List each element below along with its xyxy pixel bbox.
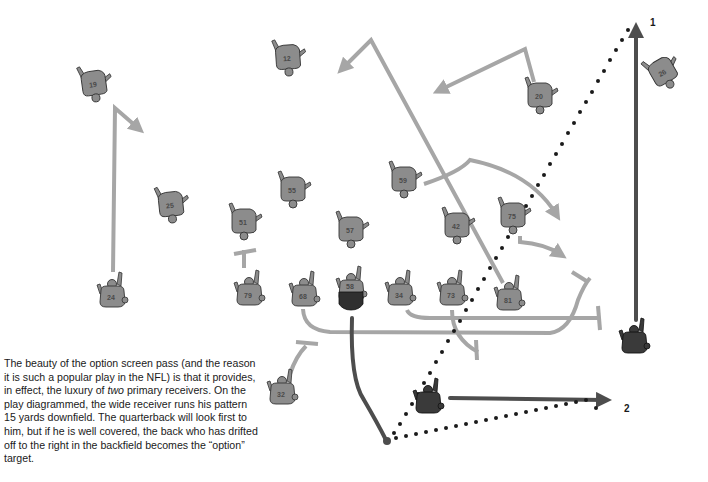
route-75 [520,236,560,254]
svg-text:34: 34 [395,292,403,299]
svg-text:25: 25 [166,202,175,210]
svg-text:57: 57 [346,227,354,234]
svg-text:20: 20 [535,93,543,100]
player-75: 75 [498,197,531,234]
player-68: 68 [289,271,320,306]
svg-text:81: 81 [504,297,512,304]
defense-players: 19 12 20 26 25 51 55 57 59 42 75 [77,38,688,248]
player-34: 34 [385,270,416,305]
player-51: 51 [229,203,262,240]
diagram-caption: The beauty of the option screen pass (an… [4,357,260,466]
route-label-2: 2 [624,403,630,414]
player-12: 12 [272,38,308,77]
svg-text:55: 55 [288,187,296,194]
svg-text:75: 75 [508,213,516,220]
player-73: 73 [437,270,468,305]
player-19: 19 [77,63,115,104]
player-25: 25 [154,184,191,224]
route-20 [440,49,534,90]
offense-players: 58 [336,266,650,413]
player-24: 24 [97,272,128,307]
svg-text:51: 51 [239,219,247,226]
svg-text:59: 59 [399,177,407,184]
route-2-back [450,398,604,400]
route-24 [113,108,138,272]
svg-text:79: 79 [244,292,252,299]
caption-emphasis: two [107,384,124,396]
player-center-58: 58 [336,266,367,310]
svg-text:12: 12 [283,55,291,63]
pass-paths [392,28,630,440]
route-label-1: 1 [650,17,656,28]
route-59 [424,160,556,214]
quarterback-position [383,437,391,445]
player-20: 20 [525,77,558,114]
svg-text:24: 24 [107,294,115,301]
player-32: 32 [267,369,298,404]
svg-text:19: 19 [89,81,98,89]
svg-text:58: 58 [346,283,354,290]
player-59: 59 [389,161,422,198]
quarterback-dropback [352,318,386,440]
player-79: 79 [234,270,265,305]
svg-text:73: 73 [447,292,455,299]
player-55: 55 [278,171,311,208]
svg-text:32: 32 [277,391,285,398]
player-81: 81 [494,275,525,310]
player-wide-receiver [619,318,650,353]
svg-text:42: 42 [452,223,460,230]
player-57: 57 [336,211,369,248]
player-26: 26 [641,47,688,96]
svg-text:68: 68 [299,293,307,300]
player-running-back [413,378,444,413]
